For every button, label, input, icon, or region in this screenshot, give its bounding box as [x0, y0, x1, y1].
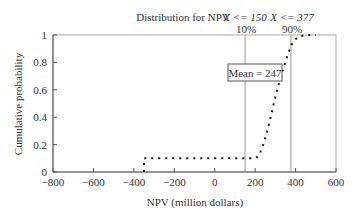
x-tick-label: 600 [328, 176, 345, 188]
mean-annotation: Mean = 247 [228, 64, 282, 81]
cumulative-curve [144, 35, 316, 172]
cumulative-distribution-chart: Distribution for NPV X <= 150 X <= 377 1… [0, 0, 362, 217]
x-tick-label: −200 [163, 176, 186, 188]
marker-label-bottom-1: 10% [236, 23, 256, 35]
marker-label-bottom-2: 90% [282, 23, 302, 35]
x-tick-label: −400 [122, 176, 145, 188]
marker-label-top-2: X <= 377 [269, 11, 314, 23]
y-tick-label: 0.4 [33, 111, 47, 123]
x-tick-label: 0 [212, 176, 218, 188]
mean-label: Mean = 247 [228, 67, 282, 79]
x-tick-label: −600 [82, 176, 105, 188]
y-tick-label: 0.6 [33, 84, 47, 96]
y-tick-label: 1 [42, 29, 48, 41]
plot-frame [53, 35, 336, 172]
x-tick-label: 400 [287, 176, 304, 188]
y-tick-label: 0.8 [33, 56, 47, 68]
marker-label-top-1: X <= 150 [222, 11, 267, 23]
y-tick-label: 0.2 [33, 139, 47, 151]
chart-title: Distribution for NPV [136, 11, 230, 23]
y-tick-label: 0 [42, 166, 48, 178]
y-axis-label: Cumulative probability [12, 52, 24, 155]
x-axis-label: NPV (million dollars) [147, 196, 244, 209]
x-tick-label: 200 [247, 176, 264, 188]
